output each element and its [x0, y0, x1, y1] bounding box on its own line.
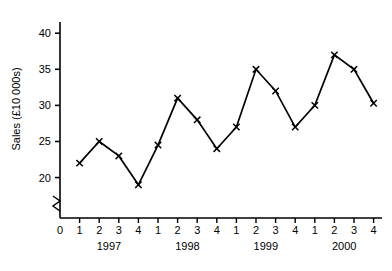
sales-line-chart: 2025303540012341234123412341997199819992… [0, 0, 392, 271]
x-tick-label-quarter: 3 [351, 224, 357, 236]
x-origin-label: 0 [57, 224, 63, 236]
data-point-marker [135, 182, 141, 188]
x-tick-label-quarter: 3 [194, 224, 200, 236]
data-point-marker [174, 95, 180, 101]
y-tick-label: 35 [39, 63, 51, 75]
data-point-marker [214, 145, 220, 151]
data-point-marker [116, 153, 122, 159]
x-axis-year-label: 1999 [254, 240, 278, 252]
data-point-marker [194, 117, 200, 123]
x-tick-label-quarter: 4 [135, 224, 141, 236]
x-tick-label-quarter: 2 [331, 224, 337, 236]
x-tick-label-quarter: 2 [253, 224, 259, 236]
x-axis-year-label: 2000 [332, 240, 356, 252]
y-axis-title: Sales (£10 000s) [10, 67, 22, 150]
y-tick-label: 40 [39, 27, 51, 39]
x-tick-label-quarter: 4 [371, 224, 377, 236]
x-axis-year-label: 1998 [175, 240, 199, 252]
data-series-line [80, 55, 374, 185]
x-tick-label-quarter: 1 [77, 224, 83, 236]
y-tick-label: 20 [39, 172, 51, 184]
x-tick-label-quarter: 3 [273, 224, 279, 236]
x-tick-label-quarter: 1 [155, 224, 161, 236]
y-tick-label: 30 [39, 99, 51, 111]
x-tick-label-quarter: 4 [292, 224, 298, 236]
chart-canvas: 2025303540012341234123412341997199819992… [0, 0, 392, 271]
x-tick-label-quarter: 2 [175, 224, 181, 236]
x-tick-label-quarter: 1 [233, 224, 239, 236]
data-point-marker [272, 88, 278, 94]
y-tick-label: 25 [39, 135, 51, 147]
data-point-marker [76, 160, 82, 166]
data-point-marker [155, 142, 161, 148]
x-tick-label-quarter: 2 [96, 224, 102, 236]
y-axis-break-icon [53, 196, 60, 211]
data-point-marker [351, 66, 357, 72]
data-point-marker [292, 124, 298, 130]
data-point-marker [370, 100, 376, 106]
x-tick-label-quarter: 1 [312, 224, 318, 236]
x-axis-year-label: 1997 [97, 240, 121, 252]
x-tick-label-quarter: 3 [116, 224, 122, 236]
data-point-marker [96, 138, 102, 144]
x-tick-label-quarter: 4 [214, 224, 220, 236]
